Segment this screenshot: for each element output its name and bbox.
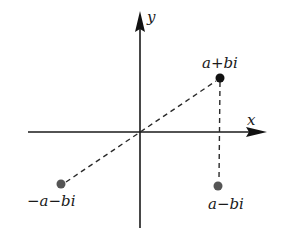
point-neg-a-minus-bi [57,180,66,189]
point-a-minus-bi [214,182,223,191]
y-axis-arrow-icon [135,11,145,32]
x-axis-label: x [247,113,255,128]
y-axis-label: y [147,10,155,25]
complex-plane-diagram: y x a+bi a−bi −a−bi [0,0,281,236]
dashed-line-z-to-conjugate [219,82,220,180]
label-neg-a-minus-bi: −a−bi [27,194,75,209]
point-a-plus-bi [216,74,225,83]
label-a-plus-bi: a+bi [202,56,238,71]
label-a-minus-bi: a−bi [208,197,244,212]
